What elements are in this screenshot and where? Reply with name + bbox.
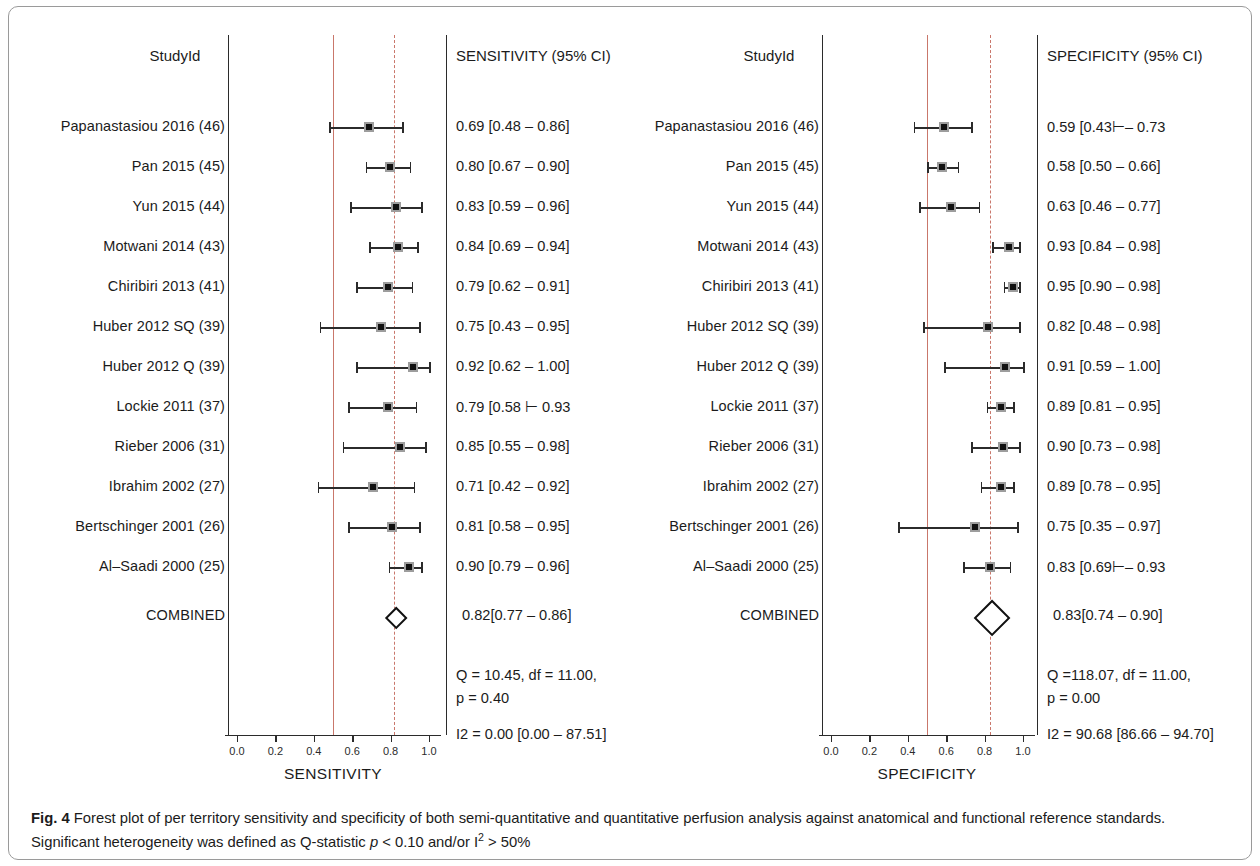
study-estimate-marker bbox=[985, 562, 995, 572]
estimate-ci-text: 0.59 [0.43⊢– 0.73 bbox=[1047, 118, 1166, 135]
confidence-interval-cap-lower bbox=[914, 122, 916, 133]
panel-divider-rule-1 bbox=[822, 35, 823, 735]
study-estimate-marker bbox=[383, 402, 393, 412]
caption-italic-p: p bbox=[370, 834, 378, 850]
study-label: Papanastasiou 2016 (46) bbox=[631, 118, 819, 134]
x-axis-tick-label: 1.0 bbox=[414, 745, 444, 757]
confidence-interval-cap-upper bbox=[412, 282, 414, 293]
combined-estimate-diamond bbox=[974, 600, 1011, 637]
study-label: Huber 2012 SQ (39) bbox=[631, 318, 819, 334]
estimate-column-header: SPECIFICITY (95% CI) bbox=[1047, 47, 1203, 64]
x-axis-tick bbox=[869, 736, 870, 742]
heterogeneity-i2-text: I2 = 90.68 [86.66 – 94.70] bbox=[1047, 726, 1214, 742]
caption-text-1: Forest plot of per territory sensitivity… bbox=[31, 810, 1165, 850]
x-axis-tick bbox=[314, 736, 315, 742]
estimate-ci-text: 0.69 [0.48 – 0.86] bbox=[456, 118, 570, 134]
confidence-interval-cap-upper bbox=[419, 322, 421, 333]
confidence-interval-cap-upper bbox=[414, 482, 416, 493]
study-id-header: StudyId bbox=[125, 47, 225, 64]
estimate-ci-text: 0.80 [0.67 – 0.90] bbox=[456, 158, 570, 174]
study-estimate-marker bbox=[391, 202, 401, 212]
study-id-header: StudyId bbox=[719, 47, 819, 64]
study-label: Al–Saadi 2000 (25) bbox=[9, 558, 225, 574]
caption-label: Fig. 4 bbox=[31, 810, 70, 826]
panel-divider-rule-1 bbox=[228, 35, 229, 735]
x-axis-tick-label: 0.6 bbox=[931, 745, 961, 757]
confidence-interval-cap-lower bbox=[898, 522, 900, 533]
estimate-ci-text: 0.84 [0.69 – 0.94] bbox=[456, 238, 570, 254]
figure-caption: Fig. 4 Forest plot of per territory sens… bbox=[31, 807, 1231, 854]
confidence-interval-line bbox=[944, 367, 1023, 369]
confidence-interval-cap-upper bbox=[1017, 522, 1019, 533]
confidence-interval-cap-lower bbox=[992, 242, 994, 253]
estimate-ci-text: 0.75 [0.35 – 0.97] bbox=[1047, 518, 1161, 534]
x-axis-title: SPECIFICITY bbox=[777, 765, 1077, 783]
confidence-interval-line bbox=[923, 327, 1019, 329]
heterogeneity-p-text: p = 0.40 bbox=[456, 690, 509, 706]
study-label: Al–Saadi 2000 (25) bbox=[631, 558, 819, 574]
x-axis-tick-label: 0.0 bbox=[222, 745, 252, 757]
x-axis-tick bbox=[352, 736, 353, 742]
panel-divider-rule-2 bbox=[446, 35, 447, 735]
combined-label: COMBINED bbox=[9, 607, 225, 623]
study-estimate-marker bbox=[385, 162, 395, 172]
x-axis-tick-label: 0.0 bbox=[816, 745, 846, 757]
confidence-interval-line bbox=[971, 447, 1019, 449]
confidence-interval-cap-lower bbox=[348, 522, 350, 533]
confidence-interval-cap-upper bbox=[971, 122, 973, 133]
estimate-ci-text: 0.90 [0.79 – 0.96] bbox=[456, 558, 570, 574]
estimate-ci-text: 0.83 [0.69⊢– 0.93 bbox=[1047, 558, 1166, 575]
confidence-interval-cap-upper bbox=[417, 242, 419, 253]
study-label: Lockie 2011 (37) bbox=[9, 398, 225, 414]
confidence-interval-cap-upper bbox=[421, 562, 423, 573]
confidence-interval-cap-upper bbox=[958, 162, 960, 173]
study-label: Papanastasiou 2016 (46) bbox=[9, 118, 225, 134]
estimate-ci-text: 0.89 [0.78 – 0.95] bbox=[1047, 478, 1161, 494]
confidence-interval-cap-upper bbox=[429, 362, 431, 373]
confidence-interval-cap-lower bbox=[356, 362, 358, 373]
confidence-interval-cap-lower bbox=[923, 322, 925, 333]
confidence-interval-cap-upper bbox=[1010, 562, 1012, 573]
confidence-interval-cap-lower bbox=[369, 242, 371, 253]
study-estimate-marker bbox=[376, 322, 386, 332]
heterogeneity-q-text: Q = 10.45, df = 11.00, bbox=[456, 667, 597, 683]
panel-sensitivity: StudyIdSENSITIVITY (95% CI)Papanastasiou… bbox=[9, 7, 639, 793]
confidence-interval-cap-lower bbox=[919, 202, 921, 213]
study-label: Ibrahim 2002 (27) bbox=[9, 478, 225, 494]
study-estimate-marker bbox=[383, 282, 393, 292]
study-label: Motwani 2014 (43) bbox=[631, 238, 819, 254]
confidence-interval-cap-lower bbox=[343, 442, 345, 453]
study-label: Bertschinger 2001 (26) bbox=[9, 518, 225, 534]
study-estimate-marker bbox=[937, 162, 947, 172]
pooled-estimate-line bbox=[394, 35, 395, 735]
x-axis-tick-label: 0.4 bbox=[299, 745, 329, 757]
x-axis-line bbox=[225, 735, 441, 736]
study-label: Rieber 2006 (31) bbox=[9, 438, 225, 454]
confidence-interval-line bbox=[320, 327, 420, 329]
confidence-interval-cap-upper bbox=[1023, 362, 1025, 373]
figure-card: StudyIdSENSITIVITY (95% CI)Papanastasiou… bbox=[8, 6, 1252, 860]
x-axis-tick bbox=[908, 736, 909, 742]
confidence-interval-cap-lower bbox=[348, 402, 350, 413]
study-estimate-marker bbox=[404, 562, 414, 572]
confidence-interval-cap-upper bbox=[1019, 242, 1021, 253]
study-label: Chiribiri 2013 (41) bbox=[9, 278, 225, 294]
confidence-interval-cap-upper bbox=[1019, 442, 1021, 453]
study-estimate-marker bbox=[939, 122, 949, 132]
confidence-interval-line bbox=[350, 207, 421, 209]
study-label: Huber 2012 Q (39) bbox=[631, 358, 819, 374]
study-estimate-marker bbox=[970, 522, 980, 532]
estimate-ci-text: 0.63 [0.46 – 0.77] bbox=[1047, 198, 1161, 214]
estimate-ci-text: 0.81 [0.58 – 0.95] bbox=[456, 518, 570, 534]
study-label: Motwani 2014 (43) bbox=[9, 238, 225, 254]
x-axis-tick-label: 0.2 bbox=[260, 745, 290, 757]
confidence-interval-cap-upper bbox=[416, 402, 418, 413]
confidence-interval-cap-lower bbox=[320, 322, 322, 333]
estimate-ci-text: 0.90 [0.73 – 0.98] bbox=[1047, 438, 1161, 454]
confidence-interval-line bbox=[348, 407, 415, 409]
confidence-interval-cap-lower bbox=[366, 162, 368, 173]
confidence-interval-cap-lower bbox=[944, 362, 946, 373]
confidence-interval-line bbox=[348, 527, 419, 529]
study-label: Bertschinger 2001 (26) bbox=[631, 518, 819, 534]
confidence-interval-cap-lower bbox=[927, 162, 929, 173]
